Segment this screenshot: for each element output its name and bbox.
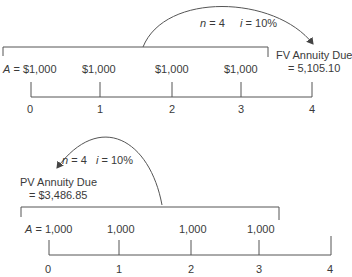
i-variable: i xyxy=(96,154,98,166)
pv-rate-label: n = 4 i = 10% xyxy=(62,154,133,166)
pv-result-title: PV Annuity Due xyxy=(20,176,97,188)
fv-payment-1: $1,000 xyxy=(82,63,116,75)
pv-period-0: 0 xyxy=(45,263,51,275)
pv-payment-2: 1,000 xyxy=(179,223,207,235)
fv-bracket xyxy=(3,47,268,57)
n-variable: n xyxy=(200,17,206,29)
fv-payment-2: $1,000 xyxy=(155,63,189,75)
i-value: = 10% xyxy=(246,17,278,29)
pv-payment-0: A = 1,000 xyxy=(25,223,72,235)
payment-amount: = 1,000 xyxy=(35,223,72,235)
i-value: = 10% xyxy=(101,154,133,166)
i-variable: i xyxy=(240,17,242,29)
fv-period-1: 1 xyxy=(97,103,103,115)
fv-result-value: = 5,105.10 xyxy=(288,62,340,74)
fv-period-3: 3 xyxy=(238,103,244,115)
pv-period-3: 3 xyxy=(256,263,262,275)
fv-payment-0: A = $1,000 xyxy=(3,63,57,75)
n-variable: n xyxy=(62,154,68,166)
pv-timeline xyxy=(49,236,331,255)
pv-payment-3: 1,000 xyxy=(247,223,275,235)
fv-period-4: 4 xyxy=(309,103,315,115)
annuity-variable: A xyxy=(3,63,10,75)
payment-amount: = $1,000 xyxy=(13,63,56,75)
fv-rate-label: n = 4 i = 10% xyxy=(200,17,277,29)
pv-payment-1: 1,000 xyxy=(107,223,135,235)
pv-bracket xyxy=(21,207,279,220)
pv-period-1: 1 xyxy=(116,263,122,275)
n-value: = 4 xyxy=(71,154,87,166)
fv-period-0: 0 xyxy=(27,103,33,115)
pv-result-value: = $3,486.85 xyxy=(29,189,87,201)
fv-timeline xyxy=(31,82,312,97)
n-value: = 4 xyxy=(209,17,225,29)
fv-result-title: FV Annuity Due xyxy=(276,49,352,61)
annuity-variable: A xyxy=(25,223,32,235)
pv-period-4: 4 xyxy=(327,263,333,275)
fv-payment-3: $1,000 xyxy=(224,63,258,75)
pv-period-2: 2 xyxy=(188,263,194,275)
fv-period-2: 2 xyxy=(169,103,175,115)
